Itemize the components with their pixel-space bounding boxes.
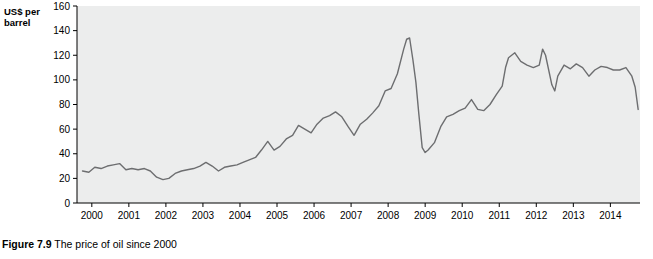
figure-container: US$ per barrel 020406080100120140160 200…: [0, 0, 653, 259]
x-axis-ticks: 2000200120022003200420052006200720082009…: [81, 203, 622, 221]
plot-background: [77, 6, 640, 203]
y-tick-label: 40: [59, 148, 71, 159]
y-tick-label: 60: [59, 124, 71, 135]
x-tick-label: 2013: [562, 210, 585, 221]
x-tick-label: 2005: [266, 210, 289, 221]
x-tick-label: 2007: [340, 210, 363, 221]
x-tick-label: 2000: [81, 210, 104, 221]
y-axis-ticks: 020406080100120140160: [53, 1, 77, 209]
y-tick-label: 100: [53, 74, 70, 85]
x-tick-label: 2003: [192, 210, 215, 221]
x-tick-label: 2008: [377, 210, 400, 221]
x-tick-label: 2012: [525, 210, 548, 221]
x-tick-label: 2009: [414, 210, 437, 221]
y-tick-label: 0: [64, 198, 70, 209]
y-tick-label: 20: [59, 173, 71, 184]
figure-caption-label: Figure 7.9: [2, 238, 52, 250]
y-tick-label: 160: [53, 1, 70, 12]
x-tick-label: 2001: [118, 210, 141, 221]
chart-plot: 020406080100120140160 200020012002200320…: [0, 0, 653, 232]
figure-caption: Figure 7.9 The price of oil since 2000: [2, 238, 177, 250]
x-tick-label: 2006: [303, 210, 326, 221]
x-tick-label: 2004: [229, 210, 252, 221]
x-tick-label: 2014: [599, 210, 622, 221]
y-tick-label: 140: [53, 25, 70, 36]
oil-price-line-chart: 020406080100120140160 200020012002200320…: [0, 0, 653, 232]
y-tick-label: 80: [59, 99, 71, 110]
x-tick-label: 2011: [488, 210, 510, 221]
x-tick-label: 2002: [155, 210, 178, 221]
y-tick-label: 120: [53, 50, 70, 61]
x-tick-label: 2010: [451, 210, 474, 221]
figure-caption-text: The price of oil since 2000: [54, 238, 177, 250]
